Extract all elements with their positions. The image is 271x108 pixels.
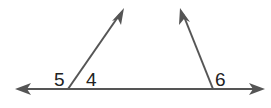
right-ray-arrowhead-icon <box>179 8 190 25</box>
diagram-svg: 5 4 6 <box>0 0 271 108</box>
diagram-canvas: 5 4 6 <box>0 0 271 108</box>
angle-label-4: 4 <box>86 69 97 90</box>
angle-label-5: 5 <box>54 69 65 90</box>
right-ray <box>183 14 213 89</box>
angle-label-6: 6 <box>215 69 226 90</box>
